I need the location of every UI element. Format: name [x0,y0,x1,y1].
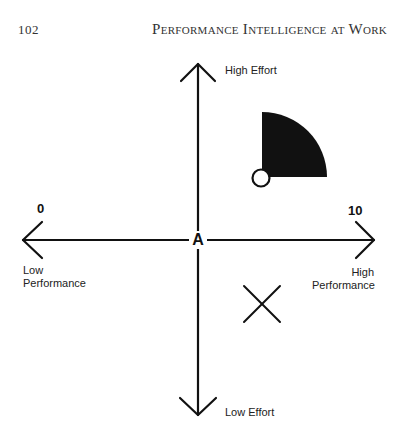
high-performance-label: High Performance [312,266,374,292]
low-effort-label: Low Effort [225,406,274,419]
low-performance-label: Low Performance [23,264,86,290]
open-circle-marker-icon [253,170,270,187]
origin-label: A [189,231,207,249]
high-performance-line2: Performance [312,279,374,292]
scale-max-label: 10 [348,203,362,218]
high-performance-line1: High [312,266,374,279]
low-performance-line2: Performance [23,277,86,290]
low-performance-line1: Low [23,264,86,277]
x-marker-icon [244,286,280,322]
quarter-circle-marker-icon [262,112,327,177]
performance-effort-diagram [0,0,398,433]
high-effort-label: High Effort [225,64,277,77]
scale-min-label: 0 [37,201,44,216]
